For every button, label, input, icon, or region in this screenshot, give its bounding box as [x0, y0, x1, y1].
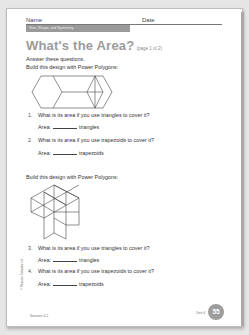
date-label: Date [142, 17, 155, 23]
page-title: What's the Area?(page 1 of 2) [26, 38, 162, 53]
unit-label: Unit 4 [196, 311, 205, 315]
instruction-line-2: Build this design with Power Polygons: [26, 64, 118, 70]
page-number-badge: 55 [208, 304, 224, 320]
name-label: Name [26, 17, 42, 23]
answer-4-blank[interactable] [53, 281, 77, 286]
answer-3-blank[interactable] [53, 257, 77, 262]
instruction-line-1: Answer these questions. [26, 56, 85, 62]
answer-3: Area:triangles [38, 257, 99, 263]
question-3: 3.What is its area if you use triangles … [28, 245, 149, 251]
copyright-credit: © Pearson Education 4 [20, 259, 24, 290]
page-shadow [241, 12, 244, 326]
title-sub: (page 1 of 2) [136, 46, 162, 51]
answer-4: Area:trapezoids [38, 281, 104, 287]
answer-2-blank[interactable] [53, 150, 77, 155]
answer-2: Area:trapezoids [38, 150, 104, 156]
instruction-line-3: Build this design with Power Polygons: [26, 174, 118, 180]
answer-1-blank[interactable] [53, 124, 77, 129]
hexagon-rhombus-figure [31, 75, 113, 109]
answer-1: Area:triangles [38, 124, 99, 130]
session-label: Session 4.2 [30, 314, 48, 318]
question-4: 4.What is its area if you use trapezoids… [28, 268, 154, 274]
isometric-rhombus-figure [30, 184, 82, 240]
question-2: 2.What is its area if you use trapezoids… [28, 137, 154, 143]
title-main: What's the Area? [26, 38, 134, 53]
question-1: 1.What is its area if you use triangles … [28, 112, 149, 118]
unit-band: Size, Shape, and Symmetry [26, 25, 130, 32]
